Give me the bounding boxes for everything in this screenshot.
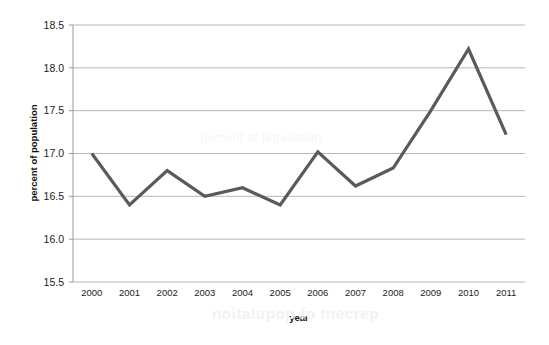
- x-tick-label: 2003: [194, 287, 215, 298]
- y-tick-label: 16.5: [44, 190, 65, 202]
- y-axis-title: percent of population: [28, 104, 39, 201]
- chart-svg: 18.518.017.517.016.516.015.5 20002001200…: [0, 0, 549, 345]
- y-tick-label: 15.5: [44, 276, 65, 288]
- x-axis-tick-labels: 2000200120022003200420052006200720082009…: [81, 287, 516, 298]
- x-tick-label: 2002: [157, 287, 178, 298]
- y-tick-label: 17.5: [44, 104, 65, 116]
- y-axis-tick-labels: 18.518.017.517.016.516.015.5: [44, 19, 65, 288]
- x-tick-label: 2000: [81, 287, 102, 298]
- x-tick-label: 2008: [383, 287, 404, 298]
- line-chart: noitalupop fo tnecrep percent of populat…: [0, 0, 549, 345]
- y-tick-label: 18.0: [44, 62, 65, 74]
- x-tick-label: 2010: [458, 287, 479, 298]
- x-tick-label: 2004: [232, 287, 253, 298]
- x-tick-label: 2007: [345, 287, 366, 298]
- y-tick-label: 16.0: [44, 233, 65, 245]
- y-tick-label: 18.5: [44, 19, 65, 31]
- x-tick-label: 2005: [270, 287, 291, 298]
- x-tick-label: 2011: [496, 287, 516, 298]
- y-tick-label: 17.0: [44, 147, 65, 159]
- x-tick-label: 2006: [307, 287, 328, 298]
- x-tick-label: 2001: [119, 287, 140, 298]
- x-tick-label: 2009: [420, 287, 441, 298]
- x-axis-title: year: [289, 312, 309, 323]
- y-axis-tick-marks: [69, 25, 73, 282]
